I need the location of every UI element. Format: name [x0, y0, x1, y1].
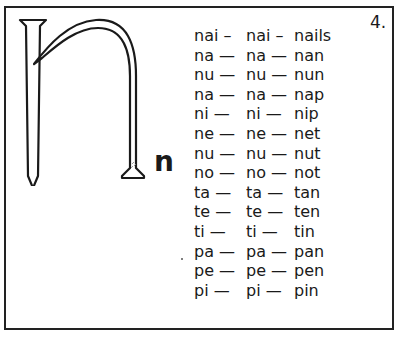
speck — [181, 258, 183, 260]
letter-n: n — [154, 148, 174, 176]
nail-letter-n-illustration — [18, 16, 158, 186]
page-number: 4. — [370, 12, 386, 32]
